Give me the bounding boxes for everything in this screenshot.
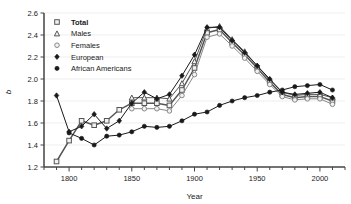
marker-filled-circle <box>217 103 221 107</box>
x-tick-label: 1950 <box>249 174 266 183</box>
marker-open-square <box>180 88 185 93</box>
marker-open-circle <box>242 56 247 61</box>
marker-filled-circle <box>180 119 184 123</box>
line-chart: 1.21.41.61.82.02.22.42.61800185019001950… <box>0 0 351 204</box>
marker-open-square <box>104 119 109 124</box>
marker-open-circle <box>293 98 298 103</box>
marker-open-triangle <box>129 95 134 100</box>
marker-filled-circle <box>80 136 84 140</box>
marker-open-circle <box>217 32 222 37</box>
marker-open-circle <box>192 72 197 77</box>
marker-filled-circle <box>318 82 322 86</box>
marker-open-circle <box>129 106 134 111</box>
marker-filled-circle <box>330 88 334 92</box>
marker-open-square <box>79 119 84 124</box>
marker-open-triangle <box>54 31 59 36</box>
marker-open-circle <box>267 82 272 87</box>
marker-filled-circle <box>192 112 196 116</box>
marker-open-square <box>55 20 60 25</box>
y-tick-label: 1.2 <box>28 163 38 172</box>
y-tick-label: 2.2 <box>28 53 38 62</box>
x-tick-label: 2000 <box>312 174 329 183</box>
x-tick-label: 1900 <box>186 174 203 183</box>
marker-open-square <box>92 123 97 128</box>
legend-label: Total <box>71 18 88 27</box>
marker-filled-circle <box>268 90 272 94</box>
y-tick-label: 2.4 <box>28 31 38 40</box>
marker-open-triangle <box>192 59 197 64</box>
y-tick-label: 1.4 <box>28 141 38 150</box>
marker-filled-circle <box>167 124 171 128</box>
marker-filled-circle <box>67 131 71 135</box>
marker-filled-circle <box>293 85 297 89</box>
marker-open-circle <box>230 44 235 49</box>
y-tick-label: 1.6 <box>28 119 38 128</box>
legend-label: African Americans <box>71 64 132 73</box>
x-axis-title: Year <box>186 192 203 201</box>
y-tick-label: 2.0 <box>28 75 38 84</box>
marker-filled-circle <box>130 130 134 134</box>
marker-open-circle <box>155 106 160 111</box>
legend-label: Females <box>71 41 100 50</box>
marker-filled-circle <box>155 125 159 129</box>
marker-filled-circle <box>205 110 209 114</box>
marker-open-triangle <box>179 81 184 86</box>
marker-open-circle <box>55 43 60 48</box>
marker-open-circle <box>330 102 335 107</box>
marker-open-square <box>54 159 59 164</box>
marker-filled-circle <box>105 134 109 138</box>
marker-open-circle <box>142 106 147 111</box>
marker-open-circle <box>167 109 172 114</box>
legend-label: Males <box>71 29 91 38</box>
marker-open-circle <box>255 69 260 74</box>
marker-open-circle <box>305 97 310 102</box>
marker-open-triangle <box>142 95 147 100</box>
marker-filled-circle <box>305 84 309 88</box>
legend: TotalMalesFemalesEuropeanAfrican America… <box>54 18 131 73</box>
marker-filled-circle <box>255 93 259 97</box>
marker-filled-circle <box>230 99 234 103</box>
marker-open-square <box>167 103 172 108</box>
marker-filled-circle <box>243 96 247 100</box>
y-axis-title: b <box>4 89 13 94</box>
marker-filled-circle <box>117 133 121 137</box>
marker-filled-circle <box>55 66 59 70</box>
chart-container: 1.21.41.61.82.02.22.42.61800185019001950… <box>0 0 351 204</box>
y-tick-label: 2.6 <box>28 9 38 18</box>
marker-open-circle <box>318 97 323 102</box>
marker-filled-diamond <box>54 93 59 98</box>
marker-open-square <box>117 108 122 113</box>
marker-open-square <box>142 101 147 106</box>
marker-filled-diamond <box>55 54 60 59</box>
marker-open-square <box>67 138 72 143</box>
marker-filled-circle <box>142 124 146 128</box>
marker-filled-circle <box>280 88 284 92</box>
legend-label: European <box>71 53 104 62</box>
marker-open-circle <box>180 93 185 98</box>
y-tick-label: 1.8 <box>28 97 38 106</box>
x-tick-label: 1800 <box>61 174 78 183</box>
marker-filled-circle <box>92 143 96 147</box>
marker-open-circle <box>205 35 210 40</box>
x-tick-label: 1850 <box>123 174 140 183</box>
